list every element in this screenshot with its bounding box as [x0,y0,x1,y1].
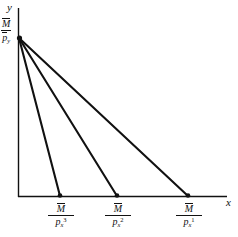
y-intercept-denominator: py [1,31,11,44]
budget-line-3 [19,38,60,196]
x-intercept-2-numerator: M [105,203,131,216]
m-bar-glyph: M [185,203,193,215]
x-intercept-1-denominator: px1 [176,216,202,228]
budget-line-figure: y x M py M px3 M px2 M px1 [0,0,238,237]
x-intercept-label-3: M px3 [48,203,74,227]
x-intercept-2-denominator: px2 [105,216,131,228]
x-intercept-3-denominator: px3 [48,216,74,228]
p-superscript: 1 [191,216,194,223]
y-intercept-label: M py [1,18,11,43]
m-bar-glyph: M [57,203,65,215]
x-intercept-3-numerator: M [48,203,74,216]
y-axis-label: y [7,2,12,13]
x-intercept-dot-2 [115,193,120,198]
p-superscript: 2 [120,216,123,223]
x-intercept-label-1: M px1 [176,203,202,227]
m-bar-glyph: M [114,203,122,215]
x-intercept-1-numerator: M [176,203,202,216]
p-superscript: 3 [63,216,66,223]
x-axis-label: x [226,197,231,208]
x-intercept-label-2: M px2 [105,203,131,227]
x-intercept-dot-3 [58,193,63,198]
plot-canvas [0,0,238,237]
x-intercept-dot-1 [186,193,191,198]
m-bar-glyph: M [2,18,10,30]
p-bar-subscript: y [7,36,10,43]
vertex-dot [17,35,22,40]
y-intercept-numerator: M [1,18,11,31]
p-bar-glyph: p [2,32,7,44]
